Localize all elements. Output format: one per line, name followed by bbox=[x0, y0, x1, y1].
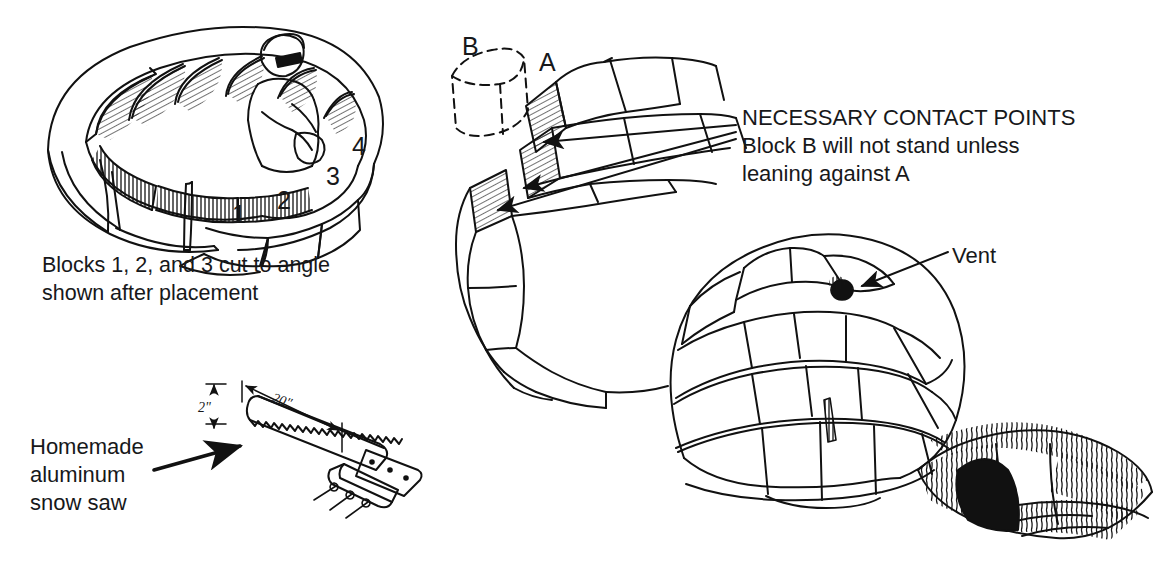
illustration-canvas: 1 2 3 4 Blocks 1, 2, and 3 cut to angle … bbox=[0, 0, 1163, 575]
contact-points-note-line-3: leaning against A bbox=[742, 161, 910, 186]
block-ring-caption-line-2: shown after placement bbox=[42, 281, 258, 306]
entrance-trench bbox=[918, 422, 1152, 540]
block-label-a: A bbox=[539, 48, 556, 77]
block-ring-drawing bbox=[48, 27, 383, 275]
block-number-2: 2 bbox=[277, 186, 291, 215]
snow-saw-label-line-3: snow saw bbox=[30, 490, 127, 515]
snow-saw-label-line-1: Homemade bbox=[30, 434, 144, 459]
block-label-b: B bbox=[462, 32, 479, 61]
contact-points-heading: NECESSARY CONTACT POINTS bbox=[742, 105, 1075, 130]
contact-points-note-line-2: Block B will not stand unless bbox=[742, 133, 1020, 158]
block-ring-caption-line-1: Blocks 1, 2, and 3 cut to angle bbox=[42, 253, 330, 278]
vent-label: Vent bbox=[952, 243, 996, 268]
finished-igloo-drawing bbox=[671, 234, 1152, 540]
saw-height-dimension: 2" bbox=[198, 400, 211, 416]
block-number-4: 4 bbox=[352, 132, 366, 161]
block-number-1: 1 bbox=[232, 200, 246, 229]
snow-saw-label-line-2: aluminum bbox=[30, 462, 125, 487]
contact-points-drawing bbox=[452, 49, 746, 408]
block-number-3: 3 bbox=[326, 162, 340, 191]
